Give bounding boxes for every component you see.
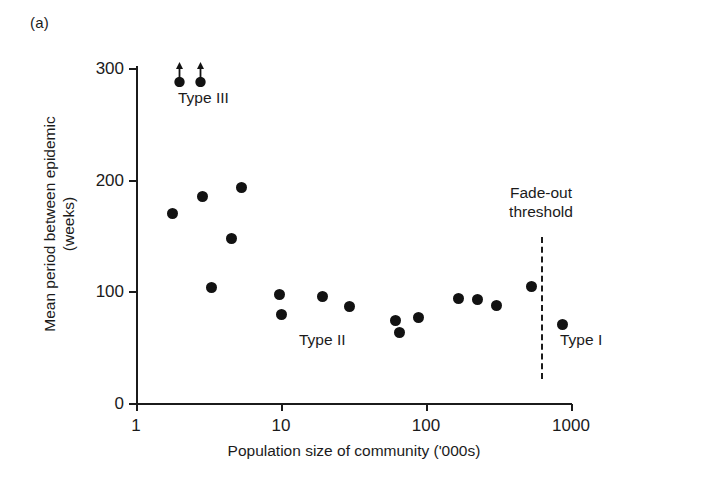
data-point bbox=[167, 208, 178, 219]
data-point bbox=[344, 301, 355, 312]
data-point bbox=[491, 300, 502, 311]
annotation-type-iii: Type III bbox=[178, 88, 229, 107]
data-point bbox=[526, 281, 537, 292]
data-point-censored bbox=[195, 61, 206, 87]
data-point-censored bbox=[174, 61, 185, 87]
data-point bbox=[197, 191, 208, 202]
data-point bbox=[453, 293, 464, 304]
x-tick-label-1000: 1000 bbox=[531, 417, 611, 434]
x-tick-1000 bbox=[571, 404, 573, 411]
figure-panel-a: (a) 0 100 200 300 1 10 100 1000 bbox=[0, 0, 726, 490]
y-axis-title-line1: Mean period between epidemic bbox=[40, 59, 59, 389]
x-tick-label-100: 100 bbox=[386, 417, 466, 434]
data-point bbox=[317, 291, 328, 302]
fadeout-threshold-line bbox=[541, 237, 543, 379]
data-point bbox=[226, 233, 237, 244]
y-tick-200 bbox=[129, 180, 136, 182]
x-tick-10 bbox=[281, 404, 283, 411]
data-point bbox=[276, 309, 287, 320]
y-tick-label-100: 100 bbox=[88, 283, 124, 300]
data-point bbox=[472, 294, 483, 305]
y-axis-line bbox=[136, 66, 138, 405]
y-tick-0 bbox=[129, 403, 136, 405]
data-point bbox=[274, 289, 285, 300]
data-point bbox=[557, 319, 568, 330]
x-axis-line bbox=[136, 403, 572, 405]
y-tick-300 bbox=[129, 68, 136, 70]
fadeout-threshold-label-line1: Fade-out bbox=[510, 184, 572, 201]
data-point bbox=[390, 315, 401, 326]
annotation-type-ii: Type II bbox=[299, 330, 346, 349]
y-tick-label-0: 0 bbox=[88, 395, 124, 412]
annotation-type-i: Type I bbox=[560, 330, 602, 349]
y-tick-label-200: 200 bbox=[88, 172, 124, 189]
x-tick-label-10: 10 bbox=[241, 417, 321, 434]
data-point bbox=[394, 327, 405, 338]
fadeout-threshold-label-line2: threshold bbox=[509, 203, 573, 220]
y-tick-100 bbox=[129, 291, 136, 293]
x-axis-title: Population size of community ('000s) bbox=[136, 442, 572, 460]
x-tick-100 bbox=[426, 404, 428, 411]
y-axis-title-line2: (weeks) bbox=[59, 59, 78, 389]
plot-area: 0 100 200 300 1 10 100 1000 Mean period … bbox=[0, 0, 726, 490]
data-point bbox=[413, 312, 424, 323]
y-tick-label-300: 300 bbox=[88, 60, 124, 77]
y-axis-title: Mean period between epidemic (weeks) bbox=[40, 59, 78, 389]
x-tick-label-1: 1 bbox=[96, 417, 176, 434]
fadeout-threshold-label: Fade-out threshold bbox=[461, 183, 621, 221]
data-point bbox=[236, 182, 247, 193]
data-point bbox=[206, 282, 217, 293]
x-tick-1 bbox=[136, 404, 138, 411]
